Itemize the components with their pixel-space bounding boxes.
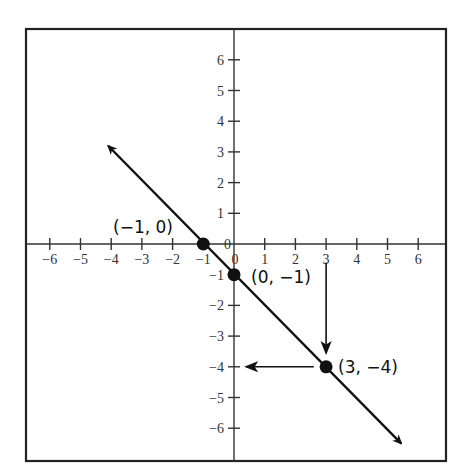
point-label-neg1-0: (−1, 0) [113,217,173,237]
x-tick-label: 5 [384,252,391,267]
x-tick-label-zero: 0 [232,252,239,267]
y-tick-label: 5 [217,84,224,99]
y-tick-label-zero: 0 [224,237,231,252]
line-chart: −6−5−4−3−2−11234560−6−5−4−3−2−11234560 (… [0,0,458,476]
y-tick-label: −6 [209,421,224,436]
point-label-3-neg4: (3, −4) [338,357,398,377]
y-tick-label: −5 [209,391,224,406]
x-tick-label: 2 [292,252,299,267]
plot-frame [26,29,446,461]
x-tick-label: −3 [134,252,149,267]
y-tick-label: −2 [209,298,224,313]
x-tick-label: 6 [415,252,422,267]
x-tick-label: −4 [104,252,119,267]
x-tick-label: −6 [42,252,57,267]
x-tick-label: −2 [165,252,180,267]
y-tick-label: 2 [217,176,224,191]
y-tick-label: 6 [217,53,224,68]
y-tick-label: 4 [217,114,224,129]
x-tick-label: 1 [261,252,268,267]
point-3-neg4 [320,360,333,373]
x-tick-label: −5 [73,252,88,267]
y-tick-label: 1 [217,206,224,221]
y-tick-label: 3 [217,145,224,160]
point-0-neg1 [228,268,241,281]
x-tick-label: 4 [353,252,360,267]
y-tick-label: −4 [209,360,224,375]
point-label-0-neg1: (0, −1) [251,267,311,287]
point-neg1-0 [197,238,210,251]
x-tick-label: −1 [196,252,211,267]
y-tick-label: −1 [209,268,224,283]
y-tick-label: −3 [209,329,224,344]
